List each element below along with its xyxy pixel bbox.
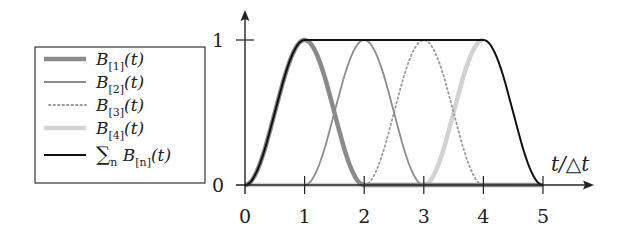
chart: 012345 1 0 t/△t B[1](t)B[2](t)B[3](t)B[4… bbox=[0, 0, 634, 235]
x-axis-label: t/△t bbox=[551, 152, 590, 176]
x-tick-label-5: 5 bbox=[537, 205, 549, 227]
y-tick-label-1: 1 bbox=[212, 29, 224, 51]
legend-label-5: ∑n B[n](t) bbox=[96, 142, 171, 169]
plot-area bbox=[245, 40, 543, 185]
series-line-2 bbox=[305, 40, 424, 185]
series-line-4 bbox=[245, 40, 483, 185]
x-tick-label-1: 1 bbox=[299, 205, 311, 227]
y-tick-label-0: 0 bbox=[212, 174, 224, 196]
legend: B[1](t)B[2](t)B[3](t)B[4](t)∑n B[n](t) bbox=[35, 47, 205, 183]
x-tick-label-4: 4 bbox=[477, 205, 489, 227]
x-tick-label-0: 0 bbox=[239, 205, 251, 227]
x-tick-label-3: 3 bbox=[418, 205, 430, 227]
axes bbox=[236, 10, 594, 194]
x-tick-label-2: 2 bbox=[358, 205, 370, 227]
